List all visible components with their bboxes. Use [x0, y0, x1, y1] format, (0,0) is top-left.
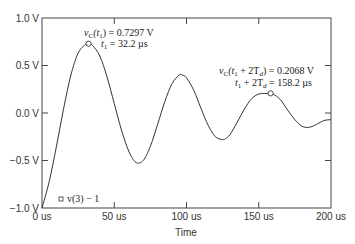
x-axis-title: Time	[175, 227, 197, 238]
annotation-1-line2: t1 = 32.2 µs	[101, 38, 148, 51]
x-tick-label: 100 us	[171, 211, 201, 222]
y-tick-label: 1.0 V	[16, 13, 40, 24]
y-tick-label: 0.5 V	[16, 60, 40, 71]
x-tick-label: 150 us	[244, 211, 274, 222]
x-tick-label: 200 us	[316, 211, 346, 222]
chart: 0 us50 us100 us150 us200 us1.0 V0.5 V0.0…	[0, 0, 355, 244]
legend-label: v(3) − 1	[67, 193, 99, 205]
annotation-marker-2	[268, 91, 273, 96]
axis-ticks	[42, 18, 331, 208]
axis-tick-labels: 0 us50 us100 us150 us200 us1.0 V0.5 V0.0…	[10, 13, 346, 223]
y-tick-label: −1.0 V	[10, 203, 40, 214]
x-tick-label: 50 us	[102, 211, 126, 222]
annotation-marker-1	[86, 41, 91, 46]
legend-marker-square	[59, 197, 63, 201]
plot-frame	[42, 18, 331, 208]
annotation-2-line2: t1 + 2Td = 158.2 µs	[235, 77, 312, 90]
y-tick-label: −0.5 V	[10, 155, 40, 166]
y-tick-label: 0.0 V	[16, 108, 40, 119]
